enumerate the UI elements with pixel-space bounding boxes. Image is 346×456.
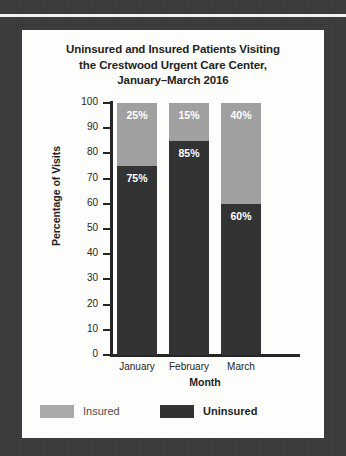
legend-item-uninsured[interactable]: Uninsured [160,405,257,418]
bar-value-label-insured-january: 25% [117,110,157,121]
y-axis-tick-70 [103,178,110,180]
bar-group-march[interactable]: 40% 60% [221,103,261,355]
bar-value-label-insured-march: 40% [221,110,261,121]
y-axis-tick-label-90: 90 [64,122,98,132]
x-axis-category-march: March [200,361,282,372]
legend-swatch-insured [40,405,74,418]
legend-label-insured: Insured [83,405,120,418]
bar-group-february[interactable]: 15% 85% [169,103,209,355]
x-axis-title: Month [110,376,300,388]
chart-figure-panel: Uninsured and Insured Patients Visiting … [22,30,324,438]
y-axis-tick-10 [103,329,110,331]
y-axis-tick-label-0: 0 [64,349,98,359]
y-axis-tick-20 [103,304,110,306]
y-axis-tick-100 [103,102,110,104]
bar-value-label-uninsured-january: 75% [117,173,157,184]
bar-segment-uninsured-january[interactable]: 75% [117,166,157,355]
legend-swatch-uninsured [160,405,194,418]
legend-item-insured[interactable]: Insured [40,405,120,418]
y-axis-tick-50 [103,228,110,230]
bar-group-january[interactable]: 25% 75% [117,103,157,355]
top-divider-rule [0,14,346,17]
chart-legend: Insured Uninsured [22,405,324,427]
y-axis-tick-40 [103,253,110,255]
y-axis-tick-80 [103,152,110,154]
plot-area: 0 10 20 30 40 50 60 70 80 90 100 Percent… [22,30,324,438]
y-axis-tick-30 [103,278,110,280]
bar-value-label-uninsured-february: 85% [169,148,209,159]
bar-segment-uninsured-march[interactable]: 60% [221,204,261,355]
y-axis-tick-label-20: 20 [64,299,98,309]
bar-value-label-uninsured-march: 60% [221,211,261,222]
y-axis-tick-label-60: 60 [64,198,98,208]
y-axis-tick-0 [103,354,110,356]
y-axis-tick-label-70: 70 [64,173,98,183]
y-axis-title: Percentage of Visits [50,141,62,251]
y-axis-tick-90 [103,127,110,129]
y-axis-tick-label-100: 100 [64,97,98,107]
bar-segment-insured-march[interactable]: 40% [221,103,261,204]
bar-segment-uninsured-february[interactable]: 85% [169,141,209,355]
legend-label-uninsured: Uninsured [203,405,257,418]
bar-segment-insured-january[interactable]: 25% [117,103,157,166]
y-axis-tick-label-30: 30 [64,273,98,283]
y-axis-tick-label-10: 10 [64,324,98,334]
page-backdrop: Uninsured and Insured Patients Visiting … [0,0,346,456]
bar-value-label-insured-february: 15% [169,110,209,121]
y-axis-tick-label-80: 80 [64,147,98,157]
y-axis-tick-label-50: 50 [64,223,98,233]
y-axis-tick-60 [103,203,110,205]
bar-segment-insured-february[interactable]: 15% [169,103,209,141]
y-axis-tick-label-40: 40 [64,248,98,258]
y-axis-line [110,101,113,357]
